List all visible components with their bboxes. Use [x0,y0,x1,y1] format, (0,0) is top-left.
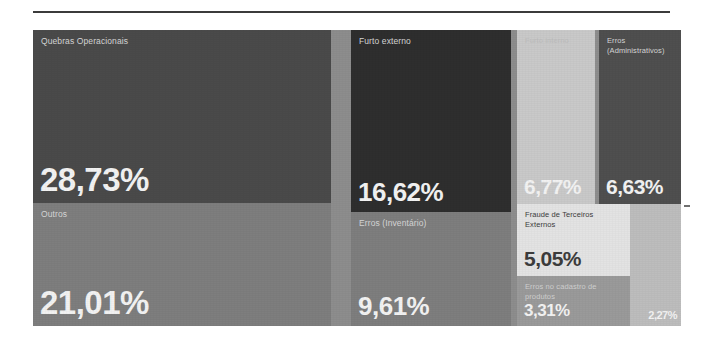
tile-label: Erros (Inventário) [359,218,507,229]
treemap-tile-quebras-operacionais[interactable]: Quebras Operacionais 28,73% [33,30,331,203]
treemap-tile-erros-administrativos[interactable]: Erros (Administrativos) 6,63% [599,30,681,204]
tile-value: 5,05% [524,248,581,269]
tile-value: 2,27% [648,310,677,321]
tile-label: Furto interno [525,36,591,46]
treemap-tile-fraude-terceiros-externos[interactable]: Fraude de Terceiros Externos 5,05% [517,204,630,276]
tile-value: 6,63% [606,176,663,197]
treemap-tile-erros-inventario[interactable]: Erros (Inventário) 9,61% [351,212,511,326]
tile-label: Erros no cadastro de produtos [525,282,626,301]
tile-label: Outros [41,209,327,220]
tile-label: Furto externo [359,36,507,47]
tile-value: 28,73% [40,163,149,196]
tile-label: Fraude de Terceiros Externos [525,210,626,229]
treemap-tile-outros[interactable]: Outros 21,01% [33,203,331,326]
tile-label: Erros (Administrativos) [607,36,677,55]
tile-label: Quebras Operacionais [41,36,327,47]
treemap-chart: Quebras Operacionais 28,73% Outros 21,01… [33,30,681,326]
tile-value: 9,61% [358,293,429,319]
tile-value: 16,62% [358,179,443,205]
treemap-tile-erros-cadastro-produtos[interactable]: Erros no cadastro de produtos 3,31% [517,276,630,326]
tile-value: 21,01% [40,286,149,319]
header-divider [33,11,670,13]
tile-value: 3,31% [524,302,570,319]
chart-page: Quebras Operacionais 28,73% Outros 21,01… [0,0,704,342]
treemap-tile-furto-interno[interactable]: Furto interno 6,77% [517,30,595,204]
treemap-tile-outros-menores[interactable]: 2,27% [630,204,681,326]
treemap-tile-furto-externo[interactable]: Furto externo 16,62% [351,30,511,212]
tile-value: 6,77% [524,176,581,197]
edge-tick-mark [684,205,690,207]
